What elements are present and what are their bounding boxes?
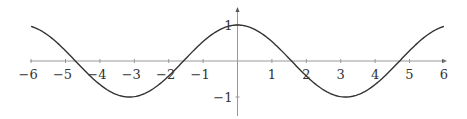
x-tick-label: 5 [405, 67, 413, 82]
x-axis-arrow-icon [442, 59, 447, 63]
x-tick-label: 4 [371, 67, 379, 82]
chart: −6−5−4−3−2−1123456 1−1 [0, 0, 467, 119]
y-tick-label: −1 [213, 90, 232, 105]
x-axis [30, 59, 447, 63]
x-tick-label: −5 [53, 67, 72, 82]
x-tick-label: −4 [87, 67, 106, 82]
y-axis-arrow-icon [236, 7, 240, 12]
x-tick-label: 6 [440, 67, 448, 82]
x-tick-label: −2 [156, 67, 175, 82]
x-tick-label: −3 [122, 67, 141, 82]
x-tick-label: 1 [268, 67, 276, 82]
x-ticks: −6−5−4−3−2−1123456 [19, 59, 449, 82]
x-tick-label: 2 [302, 67, 310, 82]
x-tick-label: −6 [19, 67, 38, 82]
x-tick-label: 3 [337, 67, 345, 82]
x-tick-label: −1 [191, 67, 210, 82]
